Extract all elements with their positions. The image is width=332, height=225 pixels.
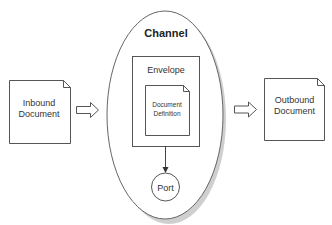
port-label: Port bbox=[157, 183, 174, 193]
outbound-document-line2: Document bbox=[274, 106, 316, 116]
document-definition-line2: Definition bbox=[153, 110, 180, 117]
channel-diagram: Channel Envelope Document Definition Por… bbox=[0, 0, 332, 225]
inbound-document-line1: Inbound bbox=[23, 98, 56, 108]
envelope-label: Envelope bbox=[147, 65, 185, 75]
outbound-document-line1: Outbound bbox=[275, 95, 315, 105]
outbound-arrow-icon bbox=[235, 102, 257, 117]
inbound-document-line2: Document bbox=[18, 109, 60, 119]
channel-label: Channel bbox=[144, 27, 187, 39]
document-definition-line1: Document bbox=[152, 101, 182, 108]
inbound-arrow-icon bbox=[77, 103, 99, 118]
